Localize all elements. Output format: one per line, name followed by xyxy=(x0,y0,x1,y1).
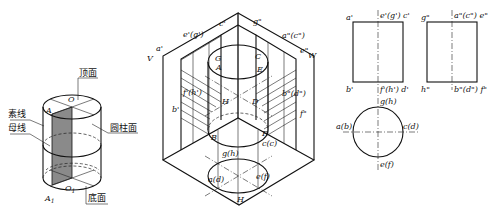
h-plane xyxy=(163,118,314,205)
label-cc-iso: c(c) xyxy=(262,139,277,148)
top-label-ef: e(f) xyxy=(380,160,394,169)
label-E: E xyxy=(256,65,263,74)
label-A: A xyxy=(45,106,52,115)
side-label-h: h" xyxy=(421,85,430,94)
label-f-dprime: f" xyxy=(299,109,307,118)
top-label-cd: c(d) xyxy=(403,122,419,131)
label-O1: O1 xyxy=(65,184,75,194)
front-label-a: a' xyxy=(346,13,353,22)
label-H-point: H xyxy=(221,97,230,106)
label-a-prime: a' xyxy=(156,44,163,53)
label-C: C xyxy=(255,52,261,61)
isometric-diagram: V W H e'(g') a' c' g" a"(c") e" f'(h') b… xyxy=(147,13,317,205)
front-label-egc: e'(g') c' xyxy=(380,11,410,20)
label-W: W xyxy=(308,51,317,60)
top-label-ab: a(b) xyxy=(336,122,352,131)
label-fh-prime: f'(h') xyxy=(182,88,202,97)
label-eg-prime: e'(g') xyxy=(183,30,204,39)
figure-canvas: 顶面 素线 母线 圆柱面 底面 A O O1 A1 xyxy=(0,0,489,218)
side-label-g: g" xyxy=(421,13,430,22)
orthographic-views: a' e'(g') c' b' f'(h') d' g" a"(c") e" h… xyxy=(336,10,488,172)
label-b-prime: b' xyxy=(172,105,179,114)
label-bd-dprime: b"(d") xyxy=(282,89,306,98)
label-A1: A1 xyxy=(44,194,55,204)
front-label-b: b' xyxy=(346,85,353,94)
front-label-fhd: f'(h') d' xyxy=(379,85,409,94)
label-ef-iso: e(f) xyxy=(256,172,270,181)
side-label-bdf: b"(d") f" xyxy=(454,85,487,94)
label-e-dprime: e" xyxy=(300,46,308,55)
label-O: O xyxy=(68,95,75,104)
label-H: H xyxy=(236,195,245,204)
label-generatrix: 母线 xyxy=(8,122,26,133)
label-A-iso: A xyxy=(215,63,222,72)
label-ad-iso: a(d) xyxy=(208,175,224,184)
label-plain-line: 素线 xyxy=(8,108,26,119)
label-V: V xyxy=(147,54,154,63)
top-label-gh: g(h) xyxy=(380,97,397,106)
label-bottom-face: 底面 xyxy=(88,192,106,203)
label-B: B xyxy=(210,133,217,142)
label-ac-dprime: a"(c") xyxy=(282,31,305,40)
label-D: D xyxy=(251,97,259,106)
label-gh-iso: g(h) xyxy=(222,149,239,158)
side-label-ace: a"(c") e" xyxy=(454,11,488,20)
label-F: F xyxy=(261,129,268,138)
label-cylinder-surface: 圆柱面 xyxy=(110,122,137,133)
cylinder-diagram: 顶面 素线 母线 圆柱面 底面 A O O1 A1 xyxy=(8,68,138,204)
label-c-prime: c' xyxy=(219,19,226,28)
label-g-dprime: g" xyxy=(253,17,262,26)
label-top-face: 顶面 xyxy=(79,68,97,78)
label-G: G xyxy=(215,54,222,63)
